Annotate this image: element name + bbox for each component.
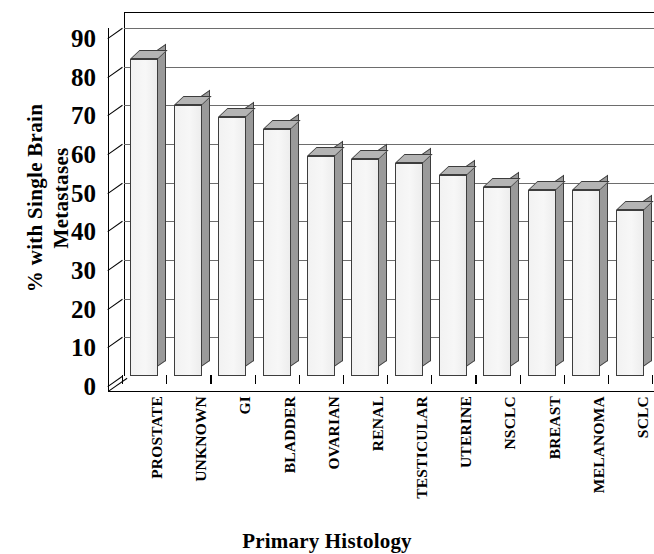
x-axis-label-unknown: UNKNOWN bbox=[193, 396, 209, 516]
bar-front-face bbox=[218, 117, 246, 376]
y-axis-tick-label: 90 bbox=[50, 26, 96, 51]
x-axis-label-prostate: PROSTATE bbox=[149, 396, 165, 516]
y-axis-tick-label: 60 bbox=[50, 142, 96, 167]
y-axis-tick-label: 30 bbox=[50, 258, 96, 283]
y-axis-tick-mark bbox=[107, 105, 122, 116]
bar-prostate bbox=[130, 59, 158, 376]
x-axis-tick-mark bbox=[608, 375, 609, 384]
x-axis-label-gi: GI bbox=[237, 396, 253, 516]
x-axis-title: Primary Histology bbox=[0, 529, 654, 554]
y-axis-tick-label: 40 bbox=[50, 219, 96, 244]
x-axis-tick-mark bbox=[210, 375, 211, 384]
bar-ovarian bbox=[307, 156, 335, 376]
y-axis-tick-mark bbox=[107, 183, 122, 194]
x-axis-label-breast: BREAST bbox=[547, 396, 563, 516]
y-axis-tick-mark bbox=[107, 144, 122, 155]
x-axis-tick-mark bbox=[564, 375, 565, 384]
x-axis-label-melanoma: MELANOMA bbox=[591, 396, 607, 516]
x-axis-tick-mark bbox=[299, 375, 300, 384]
bar-side-face bbox=[245, 102, 254, 367]
bar-gi bbox=[218, 117, 246, 376]
bar-side-face bbox=[466, 160, 475, 367]
bar-side-face bbox=[157, 44, 166, 367]
bar-front-face bbox=[263, 129, 291, 376]
y-axis-tick-label: 0 bbox=[50, 374, 96, 399]
bar-side-face bbox=[290, 113, 299, 367]
y-axis-tick-mark bbox=[107, 67, 122, 78]
x-axis-label-renal: RENAL bbox=[370, 396, 386, 516]
bar-testicular bbox=[395, 163, 423, 376]
x-axis-tick-mark bbox=[520, 375, 521, 384]
bar-unknown bbox=[174, 105, 202, 376]
bar-front-face bbox=[351, 159, 379, 376]
x-axis-label-bladder: BLADDER bbox=[282, 396, 298, 516]
plot-area bbox=[108, 12, 654, 392]
x-axis-label-nsclc: NSCLC bbox=[502, 396, 518, 516]
y-axis-tick-label: 20 bbox=[50, 297, 96, 322]
bar-side-face bbox=[201, 90, 210, 367]
y-axis-tick-label: 80 bbox=[50, 65, 96, 90]
x-axis-tick-mark bbox=[255, 375, 256, 384]
bar-front-face bbox=[528, 190, 556, 376]
bar-bladder bbox=[263, 129, 291, 376]
y-axis-tick-mark bbox=[107, 221, 122, 232]
bar-renal bbox=[351, 159, 379, 376]
bar-side-face bbox=[378, 144, 387, 367]
bar-front-face bbox=[395, 163, 423, 376]
bar-sclc bbox=[616, 210, 644, 376]
x-axis-tick-mark bbox=[652, 375, 653, 384]
x-axis-line bbox=[108, 391, 654, 392]
bar-side-face bbox=[555, 175, 564, 367]
bar-side-face bbox=[643, 194, 652, 367]
x-axis-label-uterine: UTERINE bbox=[458, 396, 474, 516]
bar-front-face bbox=[130, 59, 158, 376]
x-axis-label-sclc: SCLC bbox=[635, 396, 651, 516]
y-axis-tick-label: 10 bbox=[50, 335, 96, 360]
grid-line bbox=[124, 67, 654, 68]
bar-side-face bbox=[334, 140, 343, 367]
y-axis-tick-label: 50 bbox=[50, 181, 96, 206]
grid-line bbox=[124, 28, 654, 29]
x-axis-category-labels: PROSTATEUNKNOWNGIBLADDEROVARIANRENALTEST… bbox=[108, 396, 654, 516]
bar-breast bbox=[528, 190, 556, 376]
bar-front-face bbox=[483, 187, 511, 376]
y-axis-tick-mark bbox=[107, 260, 122, 271]
y-axis-tick-label: 70 bbox=[50, 103, 96, 128]
y-axis-tick-mark bbox=[107, 337, 122, 348]
bar-side-face bbox=[599, 175, 608, 367]
bar-side-face bbox=[510, 171, 519, 367]
bar-front-face bbox=[572, 190, 600, 376]
bar-front-face bbox=[307, 156, 335, 376]
x-axis-label-ovarian: OVARIAN bbox=[326, 396, 342, 516]
x-axis-tick-mark bbox=[166, 375, 167, 384]
x-axis-tick-mark bbox=[431, 375, 432, 384]
bar-front-face bbox=[616, 210, 644, 376]
y-axis-line bbox=[108, 28, 109, 392]
y-axis-tick-labels: 0102030405060708090 bbox=[44, 0, 96, 551]
x-axis-tick-mark bbox=[387, 375, 388, 384]
x-axis-tick-mark bbox=[122, 375, 123, 384]
y-axis-tick-mark bbox=[107, 299, 122, 310]
x-axis-label-testicular: TESTICULAR bbox=[414, 396, 430, 516]
x-axis-tick-mark bbox=[343, 375, 344, 384]
bar-uterine bbox=[439, 175, 467, 376]
bar-front-face bbox=[174, 105, 202, 376]
y-axis-tick-mark bbox=[107, 28, 122, 39]
bar-front-face bbox=[439, 175, 467, 376]
bar-side-face bbox=[422, 148, 431, 367]
bar-melanoma bbox=[572, 190, 600, 376]
bar-nsclc bbox=[483, 187, 511, 376]
x-axis-tick-mark bbox=[475, 375, 476, 384]
